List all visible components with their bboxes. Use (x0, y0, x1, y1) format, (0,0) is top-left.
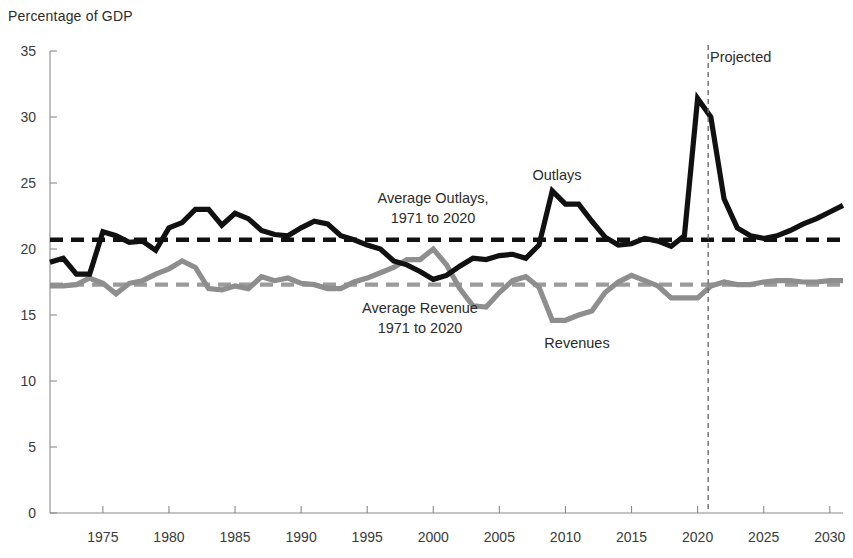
x-axis-tick-label: 2015 (616, 529, 647, 545)
x-axis-tick-label: 2005 (484, 529, 515, 545)
x-axis-tick-marks (103, 506, 830, 513)
x-axis-tick-label: 1985 (219, 529, 250, 545)
x-axis-tick-label: 2000 (418, 529, 449, 545)
y-axis-tick-marks (50, 51, 57, 513)
x-axis-tick-label: 1990 (286, 529, 317, 545)
y-axis-tick-label: 30 (20, 109, 36, 125)
y-axis-tick-label: 15 (20, 307, 36, 323)
y-axis-tick-label: 35 (20, 43, 36, 59)
y-axis-tick-label: 20 (20, 241, 36, 257)
x-axis-tick-label: 2010 (550, 529, 581, 545)
x-axis-tick-label: 2020 (682, 529, 713, 545)
y-axis-tick-label: 0 (28, 505, 36, 521)
chart-plot-svg: 05101520253035 1975198019851990199520002… (0, 0, 853, 558)
x-axis-tick-label: 2025 (748, 529, 779, 545)
x-axis-tick-labels: 1975198019851990199520002005201020152020… (87, 529, 845, 545)
average-revenue-annotation-line2: 1971 to 2020 (378, 320, 463, 336)
x-axis-tick-label: 1980 (153, 529, 184, 545)
y-axis-tick-label: 5 (28, 439, 36, 455)
outlays-series-line (50, 99, 843, 280)
outlays-series-annotation: Outlays (532, 167, 581, 183)
y-axis-tick-labels: 05101520253035 (20, 43, 36, 521)
x-axis-tick-label: 2030 (814, 529, 845, 545)
x-axis-tick-label: 1975 (87, 529, 118, 545)
average-outlays-annotation-line2: 1971 to 2020 (391, 210, 476, 226)
revenues-series-annotation: Revenues (544, 335, 609, 351)
chart-container: Percentage of GDP 05101520253035 1975198… (0, 0, 853, 558)
average-revenue-annotation-line1: Average Revenue (362, 300, 478, 316)
y-axis-tick-label: 25 (20, 175, 36, 191)
y-axis-tick-label: 10 (20, 373, 36, 389)
average-outlays-annotation-line1: Average Outlays, (378, 190, 489, 206)
projected-annotation: Projected (710, 49, 771, 65)
x-axis-tick-label: 1995 (352, 529, 383, 545)
